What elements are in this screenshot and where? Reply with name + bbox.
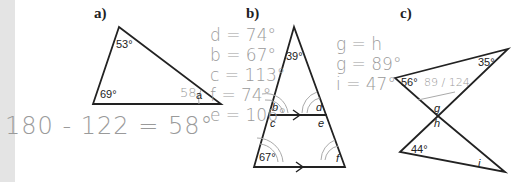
var-f: f xyxy=(336,152,339,164)
part-c-label: c) xyxy=(400,5,412,22)
handwritten-b-line-f: f = 74° xyxy=(210,85,286,105)
var-g: g xyxy=(434,102,440,114)
handwritten-b-line-e: e = 106° xyxy=(210,105,286,125)
handwritten-c-line-g: g = 89° xyxy=(336,54,401,74)
handwritten-b-line-d: d = 74° xyxy=(210,25,286,45)
angle-b-bottom-left: 67° xyxy=(259,151,276,163)
part-a-label: a) xyxy=(94,5,107,22)
var-i: i xyxy=(478,157,480,169)
handwritten-c-scribble: 89 / 124 xyxy=(424,76,470,89)
handwritten-c-line-i: i = 47° xyxy=(336,74,401,94)
var-e: e xyxy=(318,117,324,129)
handwritten-b-line-c: c = 113° xyxy=(210,65,286,85)
handwritten-a-work: 180 - 122 = 58° xyxy=(5,112,213,140)
handwritten-a-answer: 58 xyxy=(180,85,197,100)
var-a: a xyxy=(196,89,202,101)
part-b-label: b) xyxy=(246,5,259,22)
angle-c-top-right: 35° xyxy=(478,56,495,68)
angle-a-bottom-left: 69° xyxy=(100,88,117,100)
var-h: h xyxy=(434,117,440,129)
angle-a-top: 53° xyxy=(116,38,133,50)
angle-c-top-left: 56° xyxy=(401,76,418,88)
angle-b-apex: 39° xyxy=(286,50,303,62)
handwritten-c-line-gh: g = h xyxy=(336,34,401,54)
angle-c-bottom-left: 44° xyxy=(411,143,428,155)
handwritten-b-line-b: b = 67° xyxy=(210,45,286,65)
var-d: d xyxy=(316,101,322,113)
handwritten-c-work: g = h g = 89° i = 47° xyxy=(336,34,401,94)
handwritten-b-work: d = 74° b = 67° c = 113° f = 74° e = 106… xyxy=(210,25,286,125)
